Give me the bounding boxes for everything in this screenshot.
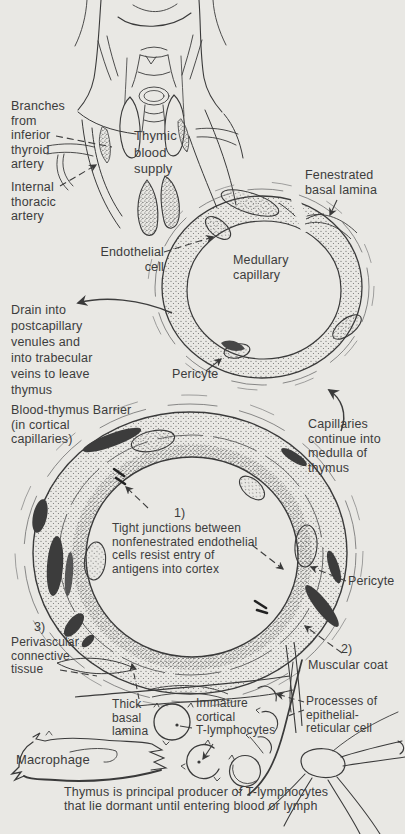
trapezius-right (213, 0, 226, 45)
label-item2-number: 2) (341, 642, 352, 657)
label-processes-reticular: Processes of epithelial- reticular cell (306, 695, 377, 736)
capillary-wall-stipple (162, 196, 362, 378)
label-internal-thoracic-artery: Internal thoracic artery (11, 180, 56, 224)
thymus-lobe-left (138, 180, 158, 235)
thymus-lobe-right (161, 176, 179, 228)
leader-immature-c1 (180, 726, 192, 728)
neck-outline-right (199, 0, 222, 112)
leader-immature-c2 (203, 744, 213, 759)
artery-lines-right (196, 128, 238, 145)
label-endothelial-cell: Endothelial cell (94, 245, 164, 274)
cell-center-dot (175, 723, 178, 726)
cell-center-dot (197, 760, 200, 763)
leader-fenestrated (330, 200, 337, 215)
label-thick-basal-lamina: Thick basal lamina (112, 698, 148, 739)
label-blood-thymus-barrier: Blood-thymus Barrier (in cortical capill… (11, 403, 131, 447)
label-capillaries-continue: Capillaries continue into medulla of thy… (308, 417, 381, 475)
chin-line (133, 4, 177, 12)
label-tight-junctions: Tight junctions between nonfenestrated e… (112, 522, 257, 576)
trapezius-left (75, 0, 87, 46)
label-immature-t-lymphocytes: Immature cortical T-lymphocytes (196, 697, 275, 738)
label-perivascular-tissue: Perivascular connective tissue (11, 636, 79, 677)
label-thymic-blood-supply: Thymic blood supply (134, 128, 177, 178)
label-item3-number: 3) (34, 620, 45, 635)
figure: Branches from inferior thyroid artery Th… (0, 0, 405, 834)
label-drain-note: Drain into postcapillary venules and int… (11, 302, 92, 398)
capillary-lumen (187, 221, 341, 359)
label-medullary-capillary: Medullary capillary (233, 253, 289, 282)
leader-tight-junction (126, 487, 148, 508)
neck-outline-left (78, 0, 101, 110)
scm-left (98, 36, 118, 80)
jaw-line (118, 13, 191, 26)
label-item1-number: 1) (174, 506, 185, 521)
thyroid-cartilage (132, 55, 176, 87)
figure-caption: Thymus is principal producer of T-lympho… (64, 786, 328, 813)
label-pericyte-cortical: Pericyte (348, 574, 394, 589)
neck-sketch (47, 0, 243, 235)
label-branches-inferior-thyroid-artery: Branches from inferior thyroid artery (11, 99, 65, 172)
medullary-capillary-drawing (148, 182, 374, 390)
tight-junction-mark (255, 601, 267, 613)
cricoid (139, 87, 169, 105)
label-macrophage: Macrophage (16, 753, 90, 768)
scm-right (182, 35, 202, 79)
cricoid-inner (144, 91, 164, 102)
label-fenestrated-basal-lamina: Fenestrated basal lamina (305, 168, 377, 197)
label-muscular-coat: Muscular coat (308, 658, 388, 673)
label-pericyte-medullary: Pericyte (172, 367, 218, 382)
hyoid (141, 47, 167, 50)
